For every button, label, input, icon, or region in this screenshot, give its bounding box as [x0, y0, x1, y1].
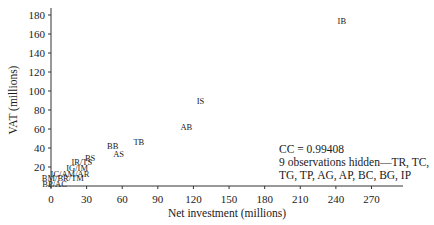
y-tick-label: 180: [29, 9, 46, 21]
annotation-line-correlation: CC = 0.99408: [279, 143, 344, 155]
scatter-chart: 0306090120150180210240270 20406080100120…: [0, 0, 434, 225]
y-tick-label: 160: [29, 28, 46, 40]
annotation-line-hidden-2: TG, TP, AG, AP, BC, BG, IP: [279, 169, 411, 182]
y-tick-label: 140: [29, 47, 46, 59]
annotation-block: CC = 0.99408 9 observations hidden—TR, T…: [279, 143, 429, 182]
x-tick-label: 240: [328, 193, 345, 205]
x-tick-label: 120: [185, 193, 202, 205]
x-tick-label: 90: [152, 193, 164, 205]
x-axis-title: Net investment (millions): [168, 207, 286, 220]
y-tick-label: 80: [34, 104, 46, 116]
y-tick-label: 60: [34, 123, 46, 135]
y-tick-label: 100: [29, 85, 46, 97]
y-tick-label: 120: [29, 66, 46, 78]
x-tick-label: 150: [221, 193, 238, 205]
x-tick-label: 60: [117, 193, 129, 205]
data-point-label: IB: [338, 16, 347, 26]
data-point-label: TB: [133, 137, 144, 147]
y-tick-label: 20: [34, 161, 46, 173]
x-ticks: 0306090120150180210240270: [48, 186, 380, 205]
data-point-label: BP/AC: [42, 179, 67, 189]
y-tick-label: 40: [34, 142, 46, 154]
x-tick-label: 30: [81, 193, 93, 205]
x-tick-label: 180: [256, 193, 273, 205]
data-point-label: AS: [113, 149, 124, 159]
y-axis-title: VAT (millions): [7, 65, 20, 134]
x-tick-label: 210: [292, 193, 309, 205]
data-point-label: IS: [197, 96, 205, 106]
annotation-line-hidden-1: 9 observations hidden—TR, TC,: [279, 156, 429, 169]
y-ticks: 20406080100120140160180: [29, 9, 52, 186]
x-tick-label: 0: [48, 193, 54, 205]
data-point-label: AB: [180, 122, 192, 132]
x-tick-label: 270: [363, 193, 380, 205]
